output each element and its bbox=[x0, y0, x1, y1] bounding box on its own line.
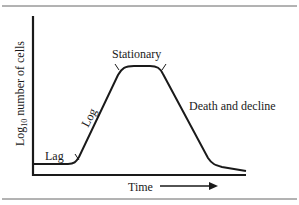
growth-curve bbox=[33, 66, 246, 171]
log-stationary-tick bbox=[115, 64, 119, 70]
log-label: Log bbox=[78, 106, 99, 130]
stationary-label: Stationary bbox=[112, 47, 161, 61]
lag-label: Lag bbox=[45, 149, 64, 163]
growth-curve-diagram: Lag Log Stationary Death and decline Log… bbox=[0, 0, 299, 205]
death-label: Death and decline bbox=[189, 99, 276, 113]
time-arrow-icon bbox=[209, 182, 218, 190]
stationary-death-tick bbox=[162, 64, 166, 70]
x-axis-label: Time bbox=[128, 180, 153, 194]
y-axis-label: Log10 number of cells bbox=[13, 41, 29, 146]
